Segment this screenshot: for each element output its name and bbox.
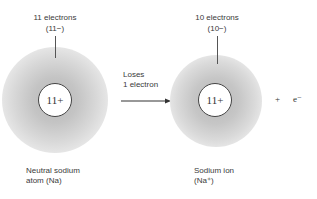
ion-pointer-line xyxy=(217,36,218,64)
ion-nucleus: 11+ xyxy=(198,83,232,117)
neutral-electron-charge: (11−) xyxy=(22,24,88,34)
process-label-line1: Loses xyxy=(123,70,144,80)
ion-caption-line1: Sodium ion xyxy=(194,166,234,176)
right-arrow-icon xyxy=(121,98,171,104)
neutral-nucleus: 11+ xyxy=(38,83,72,117)
ion-caption-line2: (Na⁺) xyxy=(194,176,214,186)
ion-nucleus-charge: 11+ xyxy=(207,94,224,106)
ion-electron-count: 10 electrons xyxy=(184,13,250,23)
neutral-caption-line2: atom (Na) xyxy=(26,176,62,186)
process-label-line2: 1 electron xyxy=(123,80,158,90)
plus-sign: + xyxy=(275,94,280,104)
neutral-nucleus-charge: 11+ xyxy=(47,94,64,106)
ion-electron-charge: (10−) xyxy=(184,24,250,34)
electron-symbol: e⁻ xyxy=(293,94,302,104)
neutral-caption-line1: Neutral sodium xyxy=(26,166,80,176)
neutral-pointer-line xyxy=(55,36,56,58)
neutral-electron-count: 11 electrons xyxy=(22,13,88,23)
